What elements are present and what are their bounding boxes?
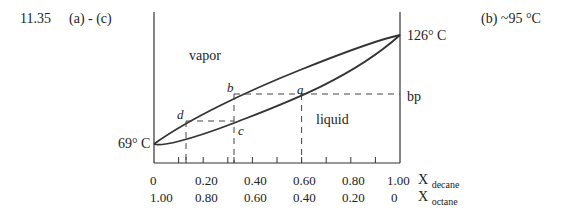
low-temp-label: 69° C [118,137,150,151]
point-label-b: b [227,81,234,94]
decane-tick-5: 1.00 [387,174,410,187]
octane-tick-2: 0.60 [244,191,267,204]
octane-tick-4: 0.20 [342,191,365,204]
high-temp-label: 126° C [407,29,446,43]
phase-diagram [0,0,562,214]
point-label-d: d [177,108,184,121]
decane-tick-4: 0.80 [342,174,365,187]
octane-tick-3: 0.40 [293,191,316,204]
x-decane-subscript: decane [432,179,460,190]
bp-label: bp [407,90,421,104]
decane-tick-1: 0.20 [195,174,218,187]
octane-tick-5: 0 [391,191,398,204]
x-octane-label: X octane [418,190,458,204]
axis-ticks [179,157,376,163]
point-label-a: a [297,83,304,96]
decane-tick-0: 0 [150,174,157,187]
vapor-region-label: vapor [189,49,221,63]
x-octane-symbol: X [418,189,428,204]
x-decane-label: X decane [418,173,459,187]
liquid-region-label: liquid [316,113,349,127]
octane-tick-1: 0.80 [195,191,218,204]
x-octane-subscript: octane [432,196,458,207]
x-decane-symbol: X [418,172,428,187]
octane-tick-0: 1.00 [150,191,173,204]
decane-tick-2: 0.40 [244,174,267,187]
point-label-c: c [238,124,244,137]
decane-tick-3: 0.60 [293,174,316,187]
